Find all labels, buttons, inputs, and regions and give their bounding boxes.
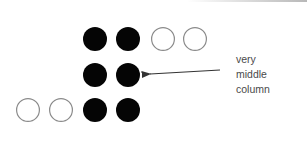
hollow-circle-r1-c4: [184, 28, 207, 51]
filled-circle-r1-c1: [83, 27, 107, 51]
hollow-circle-r3-c1: [17, 99, 40, 122]
filled-circle-r3-c4: [116, 98, 140, 122]
circles-group: [17, 27, 207, 122]
hollow-circle-r3-c2: [50, 99, 73, 122]
filled-circle-r3-c3: [83, 98, 107, 122]
annotation-line-middle: middle: [236, 67, 270, 82]
hollow-circle-r1-c3: [152, 28, 175, 51]
filled-circle-r2-c1: [83, 63, 107, 87]
filled-circle-r1-c2: [116, 27, 140, 51]
arrow-icon: [150, 70, 220, 74]
filled-circle-r2-c2: [116, 63, 140, 87]
annotation-line-very: very: [236, 52, 270, 67]
diagram-canvas: very middle column: [0, 0, 307, 142]
annotation-label: very middle column: [236, 52, 270, 97]
annotation-line-column: column: [236, 82, 270, 97]
